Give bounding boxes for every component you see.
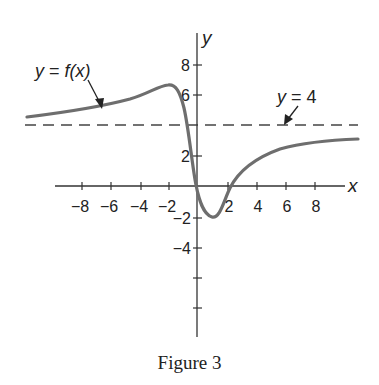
x-tick-label: 4 bbox=[254, 198, 263, 215]
y-tick-label: −4 bbox=[173, 240, 191, 257]
y-tick-label: 2 bbox=[181, 148, 190, 165]
function-graph: −8 −6 −4 −2 2 4 6 8 8 6 2 −2 −4 y x y = … bbox=[0, 0, 379, 385]
arrowhead-icon bbox=[284, 114, 293, 125]
y-axis-label: y bbox=[200, 27, 213, 48]
x-tick-label: 8 bbox=[312, 198, 321, 215]
x-tick-label: −4 bbox=[130, 198, 148, 215]
y-tick-label: −2 bbox=[173, 210, 191, 227]
x-tick-label: −8 bbox=[71, 198, 89, 215]
x-tick-labels: −8 −6 −4 −2 2 4 6 8 bbox=[71, 198, 321, 215]
y-tick-label: 8 bbox=[181, 57, 190, 74]
x-axis-label: x bbox=[347, 175, 359, 196]
x-tick-label: 6 bbox=[283, 198, 292, 215]
x-tick-label: −6 bbox=[100, 198, 118, 215]
asymptote-label: y = 4 bbox=[275, 87, 317, 107]
figure-caption: Figure 3 bbox=[0, 352, 379, 374]
curve-label: y = f(x) bbox=[33, 61, 91, 81]
